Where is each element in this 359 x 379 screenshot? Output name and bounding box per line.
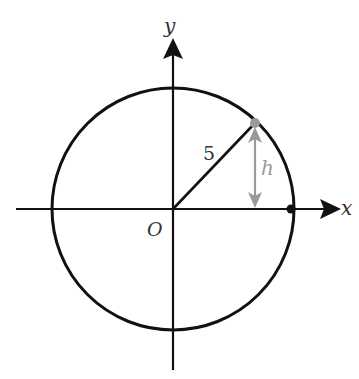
x-intercept-point [287,205,296,214]
radius-line [173,123,255,209]
height-label: h [261,156,274,180]
radius-label: 5 [203,142,215,164]
height-arrow [248,127,262,208]
x-axis-label: x [341,196,352,220]
circle-diagram [0,0,359,379]
origin-label: O [147,218,163,240]
point-on-circle [250,118,260,128]
y-axis-label: y [164,14,175,38]
